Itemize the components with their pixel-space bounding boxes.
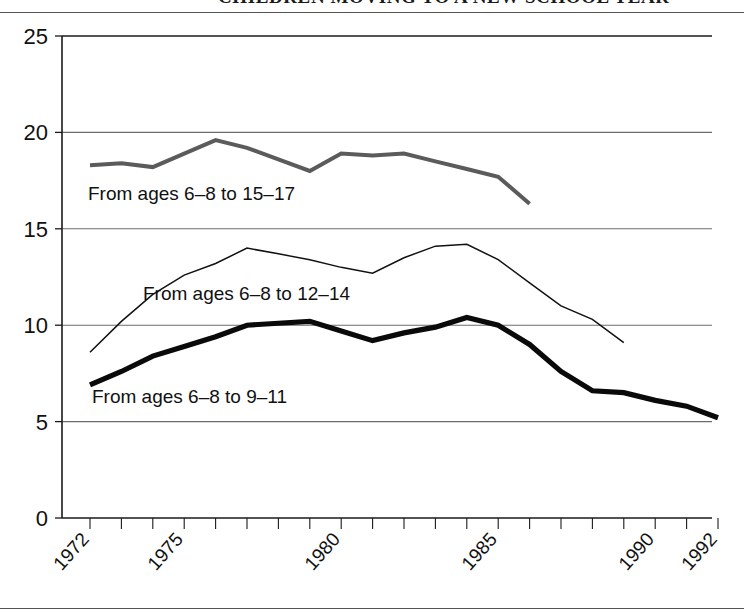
y-axis-label-0: 0 — [36, 506, 48, 531]
x-axis-label-1992: 1992 — [677, 529, 721, 574]
y-axis-label-5: 5 — [36, 410, 48, 435]
x-axis-label-1975: 1975 — [143, 529, 187, 574]
y-axis-labels-group: 0510152025 — [24, 24, 48, 531]
series-label-0: From ages 6–8 to 15–17 — [88, 183, 295, 204]
line-chart-plot: 0510152025 197219751980198519901992 From… — [0, 0, 744, 615]
series-label-1: From ages 6–8 to 12–14 — [143, 283, 350, 304]
series-label-2: From ages 6–8 to 9–11 — [92, 386, 287, 407]
series-labels-group: From ages 6–8 to 15–17From ages 6–8 to 1… — [88, 183, 350, 407]
y-axis-label-20: 20 — [24, 120, 48, 145]
x-axis-label-1985: 1985 — [457, 529, 501, 574]
x-tick-marks-group — [90, 518, 718, 529]
x-axis-labels-group: 197219751980198519901992 — [49, 529, 721, 574]
y-axis-label-25: 25 — [24, 24, 48, 49]
chart-figure: CHILDREN MOVING TO A NEW SCHOOL YEAR 051… — [0, 0, 744, 615]
gridlines-group — [62, 36, 712, 422]
y-axis-label-15: 15 — [24, 217, 48, 242]
axes-group — [55, 36, 712, 518]
y-axis-label-10: 10 — [24, 313, 48, 338]
x-axis-label-1980: 1980 — [300, 529, 344, 574]
x-axis-label-1990: 1990 — [614, 529, 658, 574]
x-axis-label-1972: 1972 — [49, 529, 93, 574]
series-group — [90, 140, 718, 418]
